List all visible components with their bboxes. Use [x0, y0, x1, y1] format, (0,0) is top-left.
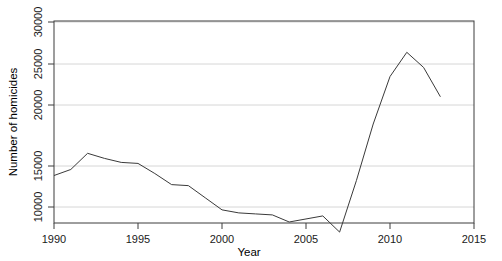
y-axis-title: Number of homicides: [7, 67, 19, 176]
y-tick-label-30000: 30000: [32, 7, 44, 38]
y-tickmarks: [48, 22, 54, 207]
chart-canvas: 30000 25000 20000 15000 10000 Number of …: [0, 0, 502, 261]
y-tick-label-20000: 20000: [32, 90, 44, 121]
homicides-series-line: [54, 52, 440, 232]
gridlines: [54, 22, 474, 207]
y-tick-label-25000: 25000: [32, 49, 44, 80]
x-tick-labels: 1990 1995 2000 2005 2010 2015: [42, 233, 486, 245]
x-tick-label-2005: 2005: [294, 233, 318, 245]
y-tick-label-15000: 15000: [32, 151, 44, 182]
x-tick-label-2015: 2015: [462, 233, 486, 245]
y-tick-labels: 30000 25000 20000 15000 10000: [32, 7, 44, 223]
x-tick-label-1995: 1995: [126, 233, 150, 245]
x-tickmarks: [54, 223, 474, 229]
x-tick-label-2010: 2010: [378, 233, 402, 245]
plot-frame: [54, 21, 474, 223]
x-axis-title: Year: [237, 246, 260, 258]
x-tick-label-1990: 1990: [42, 233, 66, 245]
homicides-line-chart: 30000 25000 20000 15000 10000 Number of …: [0, 0, 502, 261]
x-tick-label-2000: 2000: [210, 233, 234, 245]
y-tick-label-10000: 10000: [32, 192, 44, 223]
